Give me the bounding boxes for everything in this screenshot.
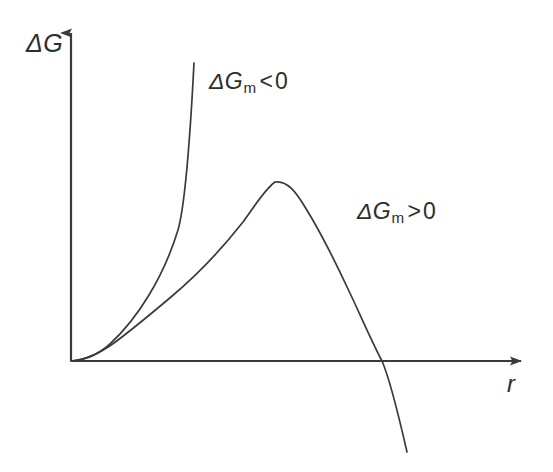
curve-label-negative-symbol: ΔG (209, 68, 243, 94)
curve-label-positive-subscript: m (391, 209, 404, 226)
curve-label-negative-subscript: m (243, 79, 256, 96)
curve-label-positive-symbol: ΔG (357, 198, 391, 224)
curve-delta-gm-negative (71, 63, 194, 361)
curve-label-positive-relation: > (404, 198, 423, 224)
curve-label-delta-gm-negative: ΔGm<0 (209, 70, 288, 95)
curve-label-positive-value: 0 (423, 198, 436, 224)
x-axis-label: r (507, 372, 515, 396)
y-axis-label: ΔG (26, 31, 63, 56)
curve-label-negative-value: 0 (275, 68, 288, 94)
free-energy-diagram: ΔG r ΔGm<0 ΔGm>0 (0, 0, 553, 472)
curve-label-negative-relation: < (256, 68, 275, 94)
curve-label-delta-gm-positive: ΔGm>0 (357, 200, 436, 225)
